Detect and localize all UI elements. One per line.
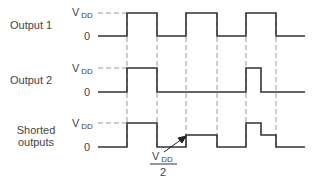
vdd-half-numerator: VDD bbox=[152, 150, 173, 165]
time-guides bbox=[127, 13, 276, 147]
shorted-outputs-waveform bbox=[98, 123, 305, 147]
vdd-reference-lines bbox=[98, 13, 127, 123]
output-1-waveform bbox=[98, 13, 305, 36]
vdd-half-denominator: 2 bbox=[160, 166, 166, 178]
output-2-waveform bbox=[98, 68, 305, 92]
